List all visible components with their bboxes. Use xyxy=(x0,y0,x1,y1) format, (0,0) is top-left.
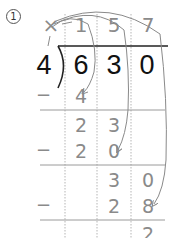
dividend-digit-3: 0 xyxy=(132,50,162,80)
remainder-digit: 3 xyxy=(99,169,129,191)
divisor: 4 xyxy=(29,50,59,80)
remainder-digit: 2 xyxy=(66,114,96,136)
problem-number-badge: 1 xyxy=(6,9,21,24)
product-digit: 2 xyxy=(99,195,129,217)
quotient-digit-1: 1 xyxy=(66,14,96,36)
remainder-digit: 3 xyxy=(99,114,129,136)
minus-sign: − xyxy=(36,84,50,106)
minus-sign: − xyxy=(36,194,50,216)
long-division-worksheet: 1 × 1 5 7 4 6 3 0 − 4 2 3 − 2 0 3 0 − 2 … xyxy=(0,0,172,238)
product-digit: 4 xyxy=(66,85,96,107)
product-digit: 8 xyxy=(133,195,163,217)
minus-sign: − xyxy=(36,139,50,161)
final-remainder: 2 xyxy=(133,223,163,238)
dividend-digit-1: 6 xyxy=(66,50,96,80)
quotient-digit-3: 7 xyxy=(133,14,163,36)
remainder-digit: 0 xyxy=(133,169,163,191)
quotient-digit-2: 5 xyxy=(99,14,129,36)
product-digit: 2 xyxy=(66,140,96,162)
quotient-mark: × xyxy=(36,14,66,36)
product-digit: 0 xyxy=(99,140,129,162)
dividend-digit-2: 3 xyxy=(99,50,129,80)
